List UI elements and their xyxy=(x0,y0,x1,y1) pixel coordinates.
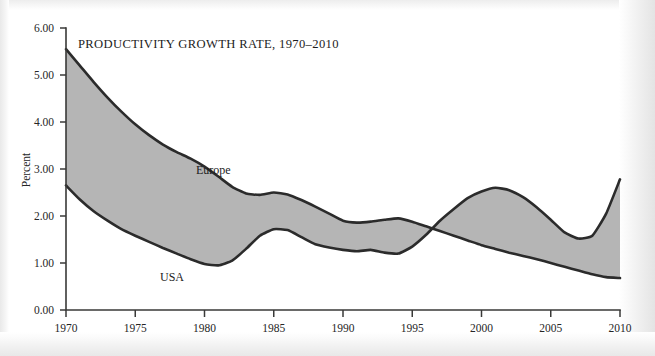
x-axis-tick-labels: 197019751980198519901995200020052010 xyxy=(55,322,632,334)
x-tick-label: 1980 xyxy=(193,322,216,334)
y-tick-label: 2.00 xyxy=(34,210,54,222)
y-tick-label: 6.00 xyxy=(34,22,54,34)
y-axis-tick-labels: 0.001.002.003.004.005.006.00 xyxy=(34,22,54,316)
y-tick-label: 3.00 xyxy=(34,163,54,175)
x-tick-label: 2005 xyxy=(539,322,562,334)
figure-page: 0.001.002.003.004.005.006.00 19701975198… xyxy=(0,0,655,356)
area-band-fill xyxy=(66,49,620,278)
series-label-europe: Europe xyxy=(196,163,231,177)
chart-title: PRODUCTIVITY GROWTH RATE, 1970–2010 xyxy=(78,37,339,51)
y-tick-label: 0.00 xyxy=(34,304,54,316)
y-axis-title: Percent xyxy=(20,152,32,187)
x-tick-label: 1985 xyxy=(262,322,285,334)
area-band-between-series xyxy=(66,49,620,278)
y-tick-label: 4.00 xyxy=(34,116,54,128)
x-tick-label: 1970 xyxy=(55,322,78,334)
x-tick-label: 2000 xyxy=(470,322,493,334)
y-tick-label: 1.00 xyxy=(34,257,54,269)
x-tick-label: 1990 xyxy=(332,322,355,334)
x-axis-ticks xyxy=(66,310,620,317)
y-tick-label: 5.00 xyxy=(34,69,54,81)
x-tick-label: 1975 xyxy=(124,322,147,334)
x-tick-label: 1995 xyxy=(401,322,424,334)
x-tick-label: 2010 xyxy=(609,322,632,334)
y-axis-ticks xyxy=(60,28,66,310)
series-label-usa: USA xyxy=(160,270,184,284)
productivity-growth-chart: 0.001.002.003.004.005.006.00 19701975198… xyxy=(0,0,655,356)
